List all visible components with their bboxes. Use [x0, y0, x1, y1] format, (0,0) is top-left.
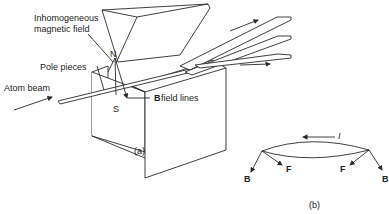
b-arrow-left [251, 151, 262, 172]
label-f-left: F [286, 164, 292, 174]
label-f-right: F [340, 164, 346, 174]
f-arrow-left [262, 151, 282, 165]
stern-gerlach-diagram: Inhomogeneous magnetic field N Pole piec… [0, 0, 389, 214]
label-current: I [338, 131, 341, 141]
b-arrow-right [369, 150, 382, 170]
figure-a: Inhomogeneous magnetic field N Pole piec… [4, 4, 291, 178]
caption-a: (a) [134, 146, 145, 156]
label-b-left: B [244, 174, 251, 184]
label-inhomogeneous: Inhomogeneous [34, 13, 99, 23]
label-magnetic-field: magnetic field [34, 24, 90, 34]
figure-b: I B F F B (b) [244, 131, 389, 210]
label-b-right: B [382, 174, 389, 184]
label-pole-pieces: Pole pieces [40, 62, 87, 72]
upper-pole-piece [102, 4, 210, 63]
beam-arrow-straight [240, 64, 270, 65]
caption-b: (b) [309, 200, 320, 210]
label-south: S [113, 104, 119, 114]
label-atom-beam: Atom beam [4, 83, 50, 93]
label-b: B [154, 93, 161, 103]
atom-beam-arrow [14, 97, 52, 110]
label-north: N [110, 49, 117, 59]
label-field-lines: field lines [161, 93, 199, 103]
